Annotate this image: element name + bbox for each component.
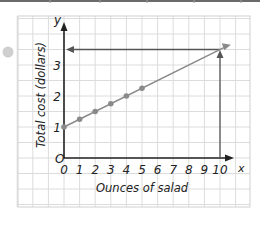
x-axis-title: Ounces of salad [96,181,189,195]
data-point [77,116,83,122]
x-tick-label: 9 [201,163,209,177]
data-point [108,101,114,107]
data-point [61,124,67,130]
y-tick-labels: 123 [53,59,61,135]
data-point [124,93,130,99]
x-axis-letter: x [237,162,245,175]
y-tick-label: 1 [53,121,61,135]
origin-label: O [55,152,64,166]
x-tick-label: 10 [212,163,228,177]
x-tick-label: 6 [154,163,162,177]
bullet-icon [3,47,14,58]
y-tick-label: 2 [53,90,61,104]
x-axis-arrow-icon [225,155,234,162]
chart-canvas: 012345678910 123 O y x Ounces of salad T… [0,0,260,225]
x-tick-label: 2 [91,163,99,177]
y-tick-label: 3 [53,59,61,73]
data-point [92,109,98,115]
x-tick-label: 4 [123,163,131,177]
y-axis-arrow-icon [61,22,68,31]
guide-arrows [66,46,224,158]
y-axis-title: Total cost (dollars) [34,42,48,148]
axes [61,22,235,162]
data-point [139,85,145,91]
x-tick-label: 3 [107,163,115,177]
grid [17,16,250,207]
x-tick-label: 5 [138,163,146,177]
x-tick-label: 1 [76,163,84,177]
arrow-left-icon [66,46,74,53]
x-tick-label: 8 [185,163,193,177]
series-total-cost [61,43,231,130]
x-tick-label: 7 [169,163,177,177]
x-tick-labels: 012345678910 [60,163,228,177]
top-border [0,0,260,2]
y-axis-letter: y [53,13,62,27]
